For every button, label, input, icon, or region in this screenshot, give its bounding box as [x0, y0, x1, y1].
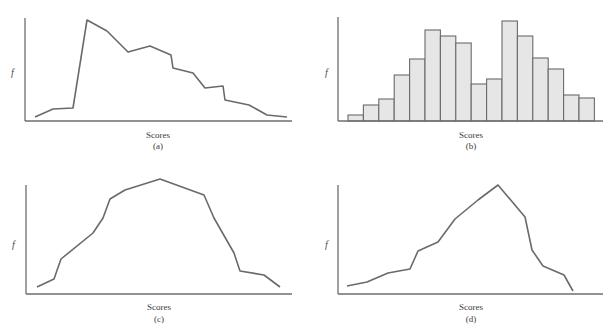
y-axis-label: f [325, 67, 329, 78]
panel-caption: (a) [153, 141, 163, 151]
histogram-bar [533, 58, 548, 121]
x-axis-label: Scores [459, 130, 483, 140]
histogram-bars [348, 21, 594, 121]
histogram-bar [410, 59, 425, 121]
histogram-bar [548, 69, 563, 121]
frequency-polygon-d [347, 185, 573, 291]
histogram-bar [471, 84, 486, 121]
panel-caption: (c) [154, 314, 164, 324]
y-axis-label: f [11, 67, 15, 78]
histogram-bar [440, 36, 455, 121]
panel-caption: (d) [466, 314, 477, 324]
histogram-bar [379, 99, 394, 121]
histogram-bar [502, 21, 517, 121]
figure-four-distributions: f Scores (a) f Scores (b) f Scores (c) f… [0, 0, 612, 335]
panel-a: f Scores (a) [11, 18, 292, 151]
histogram-bar [348, 115, 363, 121]
panel-d: f Scores (d) [325, 185, 603, 324]
x-axis-label: Scores [147, 302, 171, 312]
frequency-polygon-c [37, 179, 280, 287]
histogram-bar [394, 75, 409, 121]
histogram-bar [564, 95, 579, 121]
histogram-bar [487, 79, 502, 121]
histogram-bar [425, 30, 440, 121]
x-axis-label: Scores [459, 302, 483, 312]
panel-b: f Scores (b) [325, 17, 603, 151]
panel-caption: (b) [466, 141, 477, 151]
histogram-bar [363, 105, 378, 121]
x-axis-label: Scores [146, 130, 170, 140]
frequency-polygon-a [35, 20, 287, 117]
histogram-bar [456, 43, 471, 121]
panel-c: f Scores (c) [12, 179, 292, 324]
y-axis-label: f [12, 239, 16, 250]
histogram-bar [517, 36, 532, 121]
histogram-bar [579, 98, 594, 121]
y-axis-label: f [325, 239, 329, 250]
